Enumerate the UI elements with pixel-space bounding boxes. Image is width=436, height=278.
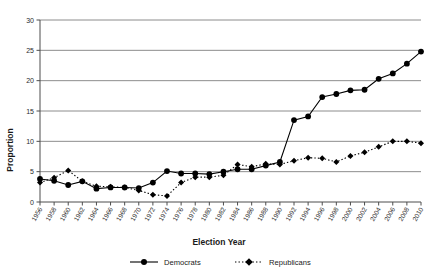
data-point-democrats <box>291 117 297 123</box>
y-tick-label: 10 <box>26 138 34 145</box>
y-tick-label: 30 <box>26 17 34 24</box>
data-point-democrats <box>65 182 71 188</box>
election-year-proportion-line-chart: 051015202530 195619581960196219641966196… <box>0 0 436 278</box>
legend-label-democrats: Democrats <box>164 258 201 267</box>
data-point-democrats <box>376 76 382 82</box>
data-point-democrats <box>333 91 339 97</box>
data-point-democrats <box>319 94 325 100</box>
y-tick-label: 0 <box>30 199 34 206</box>
y-tick-label: 15 <box>26 108 34 115</box>
legend-label-republicans: Republicans <box>269 258 311 267</box>
data-point-democrats <box>348 87 354 93</box>
x-axis-title: Election Year <box>192 237 246 247</box>
data-point-democrats <box>404 61 410 67</box>
data-point-democrats <box>150 180 156 186</box>
data-point-democrats <box>164 168 170 174</box>
data-point-democrats <box>418 49 424 55</box>
data-point-democrats <box>390 70 396 76</box>
data-point-democrats <box>362 87 368 93</box>
y-tick-label: 5 <box>30 168 34 175</box>
data-point-democrats <box>305 114 311 120</box>
legend-marker-democrats <box>141 259 147 265</box>
y-tick-label: 20 <box>26 77 34 84</box>
data-point-democrats <box>178 171 184 177</box>
y-axis-title: Proportion <box>5 128 15 171</box>
y-tick-label: 25 <box>26 47 34 54</box>
